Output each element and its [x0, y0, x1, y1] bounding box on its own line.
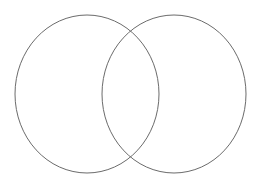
left-set-ellipse — [15, 15, 159, 173]
right-set-ellipse — [102, 15, 246, 173]
venn-svg — [0, 0, 261, 187]
venn-diagram — [0, 0, 261, 187]
